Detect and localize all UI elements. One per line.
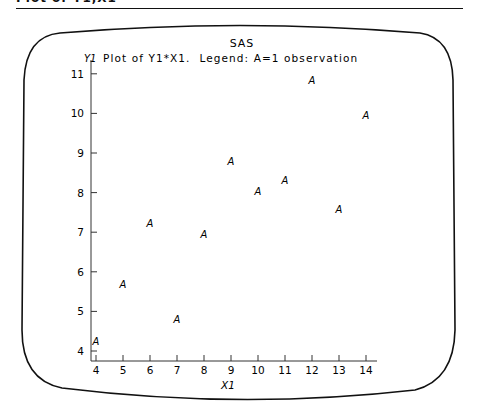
data-point-marker: A [335,204,343,215]
data-point-marker: A [281,175,289,186]
data-points: AAAAAAAAAAA [92,75,370,347]
data-point-marker: A [227,156,235,167]
x-tick-label: 12 [305,364,318,376]
x-tick-label: 6 [147,364,154,376]
y-tick-label: 11 [71,68,84,80]
x-tick-label: 10 [251,364,264,376]
data-point-marker: A [362,110,370,121]
x-tick-label: 8 [201,364,208,376]
x-tick-label: 11 [278,364,291,376]
y-tick-label: 4 [77,345,84,357]
x-tick-label: 14 [359,364,373,376]
y-tick-label: 8 [77,187,84,199]
x-tick-label: 4 [93,364,100,376]
y-axis-name: Y1 [84,53,96,64]
x-tick-label: 7 [174,364,181,376]
system-title: SAS [230,37,255,50]
y-tick-label: 9 [77,147,84,159]
plot-axes: 45678910114567891011121314 [71,60,377,376]
data-point-marker: A [200,229,208,240]
y-tick-label: 5 [77,305,84,317]
x-axis-label: X1 [220,379,235,391]
plot-title: Plot of Y1*X1. Legend: A=1 observation [103,52,358,64]
data-point-marker: A [92,336,100,347]
crt-frame [22,26,455,400]
y-tick-label: 6 [77,266,84,278]
y-tick-label: 7 [77,226,84,238]
data-point-marker: A [254,186,262,197]
y-tick-label: 10 [71,107,84,119]
crt-screen: SAS Y1 Plot of Y1*X1. Legend: A=1 observ… [0,0,478,418]
data-point-marker: A [146,218,154,229]
data-point-marker: A [308,75,316,86]
x-tick-label: 5 [120,364,127,376]
x-tick-label: 9 [228,364,235,376]
x-tick-label: 13 [332,364,345,376]
data-point-marker: A [173,314,181,325]
data-point-marker: A [119,279,127,290]
